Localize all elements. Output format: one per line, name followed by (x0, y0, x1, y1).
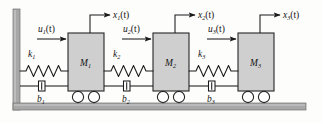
ground (13, 103, 306, 110)
fixed-wall (13, 9, 20, 110)
input-force-u2: u2(t) (122, 24, 151, 39)
mass-spring-damper-diagram: M1 M2 M3 (0, 0, 322, 123)
damper-b1: b1 (20, 81, 68, 105)
damper-b3-label: b3 (207, 94, 215, 105)
input-force-u3: u3(t) (207, 24, 236, 39)
input-force-u1: u1(t) (37, 24, 66, 39)
output-displacement-x3: x3(t) (260, 10, 299, 33)
output-displacement-x1-label: x1(t) (112, 10, 129, 21)
input-force-u3-label: u3(t) (208, 24, 225, 35)
output-displacement-x3-label: x3(t) (282, 10, 299, 21)
spring-k1: k1 (20, 49, 68, 77)
damper-b2-label: b2 (122, 94, 130, 105)
mass-2: M2 (153, 33, 189, 91)
spring-k3: k3 (189, 49, 238, 77)
spring-k1-label: k1 (28, 49, 35, 60)
damper-b2: b2 (104, 81, 153, 105)
mass-1-wheels (72, 91, 99, 102)
damper-b1-label: b1 (37, 94, 45, 105)
spring-k3-label: k3 (198, 49, 205, 60)
input-force-u2-label: u2(t) (123, 24, 140, 35)
spring-k2-label: k2 (113, 49, 120, 60)
diagram-canvas: M1 M2 M3 (0, 0, 322, 123)
output-displacement-x2-label: x2(t) (197, 10, 214, 21)
damper-b3: b3 (189, 81, 238, 105)
mass-1: M1 (68, 33, 104, 91)
mass-2-wheels (157, 91, 184, 102)
input-force-u1-label: u1(t) (38, 24, 55, 35)
spring-k2: k2 (104, 49, 153, 77)
mass-3: M3 (238, 33, 274, 91)
mass-3-wheels (242, 91, 269, 102)
